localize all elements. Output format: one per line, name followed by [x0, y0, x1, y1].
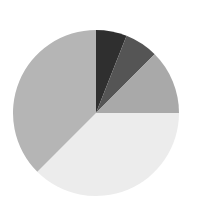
pie-chart: [0, 0, 207, 199]
